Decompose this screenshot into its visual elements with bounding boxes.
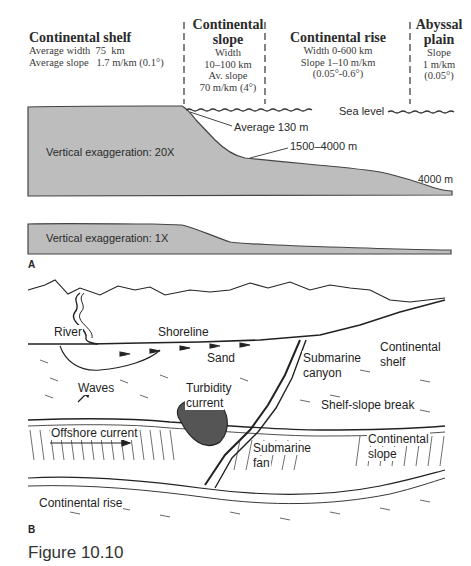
submarine-canyon-label-2: canyon xyxy=(302,366,343,380)
shelf-slope-break-label: Shelf-slope break xyxy=(320,398,415,412)
zone-dividers xyxy=(184,22,410,104)
shoreline-label: Shoreline xyxy=(157,325,210,339)
shelf-break-depth-label: Average 130 m xyxy=(234,121,308,133)
continental-slope-label-1: Continental xyxy=(367,432,430,446)
panel-letter-b: B xyxy=(28,524,35,535)
exaggeration-20x-label: Vertical exaggeration: 20X xyxy=(46,146,174,158)
waves-label: Waves xyxy=(77,381,115,395)
continental-rise-label: Continental rise xyxy=(38,496,123,510)
sea-level-label: Sea level xyxy=(339,105,384,117)
abyssal-depth-label: 4000 m xyxy=(418,173,453,185)
continental-slope-label-2: slope xyxy=(367,447,398,461)
turbidity-current-label-1: Turbidity xyxy=(185,381,233,395)
submarine-canyon-label-1: Submarine xyxy=(302,351,362,365)
submarine-fan-label-1: Submarine xyxy=(252,441,312,455)
river-label: River xyxy=(53,325,83,339)
slope-base-depth-label: 1500–4000 m xyxy=(290,140,357,152)
panel-letter-a: A xyxy=(28,259,35,270)
continental-shelf-label-2: shelf xyxy=(379,355,406,369)
figure-caption: Figure 10.10 xyxy=(28,543,123,563)
sea-level-line-right xyxy=(388,111,454,113)
submarine-fan-label-2: fan xyxy=(252,456,271,470)
continental-shelf-label-1: Continental xyxy=(379,340,442,354)
offshore-current-label: Offshore current xyxy=(50,426,138,440)
profile-diagram xyxy=(0,0,471,566)
sea-level-line xyxy=(186,109,312,111)
turbidity-current-label-2: current xyxy=(185,396,224,410)
exaggeration-1x-label: Vertical exaggeration: 1X xyxy=(46,232,168,244)
sand-label: Sand xyxy=(206,351,236,365)
